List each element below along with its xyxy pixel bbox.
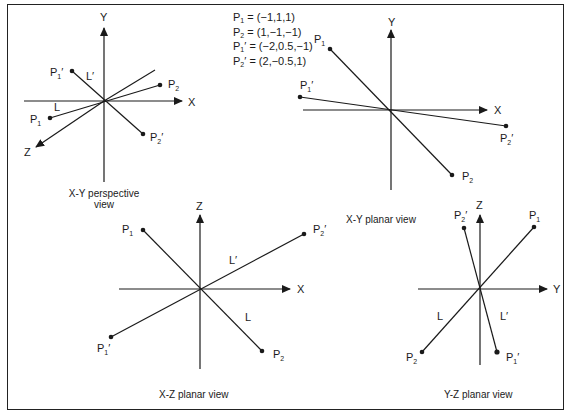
label-p2-prime: P2′	[454, 209, 467, 223]
label-p2: P2	[168, 78, 179, 92]
label-p1-prime: P1′	[97, 342, 110, 356]
label-l-prime: L′	[86, 70, 94, 82]
label-l: L	[437, 310, 443, 322]
point-p1	[328, 47, 333, 52]
label-p1: P1	[529, 209, 540, 223]
line-l-prime	[111, 234, 304, 337]
label-l: L	[54, 101, 60, 113]
z-axis-label: Z	[476, 199, 483, 211]
point-p1-prime	[70, 69, 75, 74]
point-p2-prime	[462, 226, 467, 231]
label-p1: P1	[30, 113, 41, 127]
label-p1-prime: P1′	[300, 79, 313, 93]
caption-xy-planar: X-Y planar view	[346, 214, 417, 225]
label-l-prime: L′	[229, 254, 237, 266]
point-p2	[450, 173, 455, 178]
line-l	[143, 230, 262, 351]
x-axis-label: X	[188, 96, 196, 108]
point-p2	[260, 349, 265, 354]
y-axis-label: Y	[553, 283, 561, 295]
xy-planar-view	[300, 30, 506, 190]
caption-yz-planar: Y-Z planar view	[444, 389, 513, 400]
z-axis-label: Z	[24, 146, 31, 158]
point-p2	[420, 350, 425, 355]
label-p1-prime: P1′	[506, 351, 519, 365]
point-p2-prime	[504, 124, 509, 129]
xz-planar-view	[111, 215, 304, 369]
xy-perspective-view	[24, 28, 182, 182]
point-p1	[48, 116, 53, 121]
y-axis-label: Y	[388, 16, 396, 28]
label-p2: P2	[406, 351, 417, 365]
z-axis-extension	[104, 70, 155, 101]
label-l: L	[245, 311, 251, 323]
caption-xy-perspective-line2: view	[94, 199, 115, 210]
point-p1-prime	[494, 349, 499, 354]
label-p2-prime: P2′	[150, 131, 163, 145]
caption-xz-planar: X-Z planar view	[159, 389, 229, 400]
point-p2-prime	[302, 232, 307, 237]
diagram-canvas: Y X Z P1′ P2 P1 P2′ L′ L X-Y perspective…	[0, 0, 570, 418]
point-p1	[141, 228, 146, 233]
label-p2: P2	[273, 348, 284, 362]
label-p2-prime: P2′	[500, 132, 513, 146]
point-p1-prime	[298, 95, 303, 100]
label-p2-prime: P2′	[313, 223, 326, 237]
point-p1-prime	[109, 335, 114, 340]
label-l-prime: L′	[500, 310, 508, 322]
z-axis	[36, 101, 104, 147]
line-p1p-p2p	[300, 97, 506, 126]
point-p2	[158, 83, 163, 88]
y-axis-label: Y	[100, 11, 108, 23]
point-p1	[532, 225, 537, 230]
label-p1-prime: P1′	[50, 66, 63, 80]
point-p2-prime	[141, 132, 146, 137]
x-axis-label: X	[297, 283, 305, 295]
z-axis-label: Z	[196, 200, 203, 212]
x-axis-label: X	[494, 104, 502, 116]
label-p1: P1	[314, 33, 325, 47]
line-l-prime	[72, 71, 143, 134]
label-p1: P1	[122, 223, 133, 237]
caption-xy-perspective: X-Y perspective	[69, 188, 140, 199]
label-p2: P2	[462, 170, 473, 184]
yz-planar-view	[418, 215, 547, 365]
